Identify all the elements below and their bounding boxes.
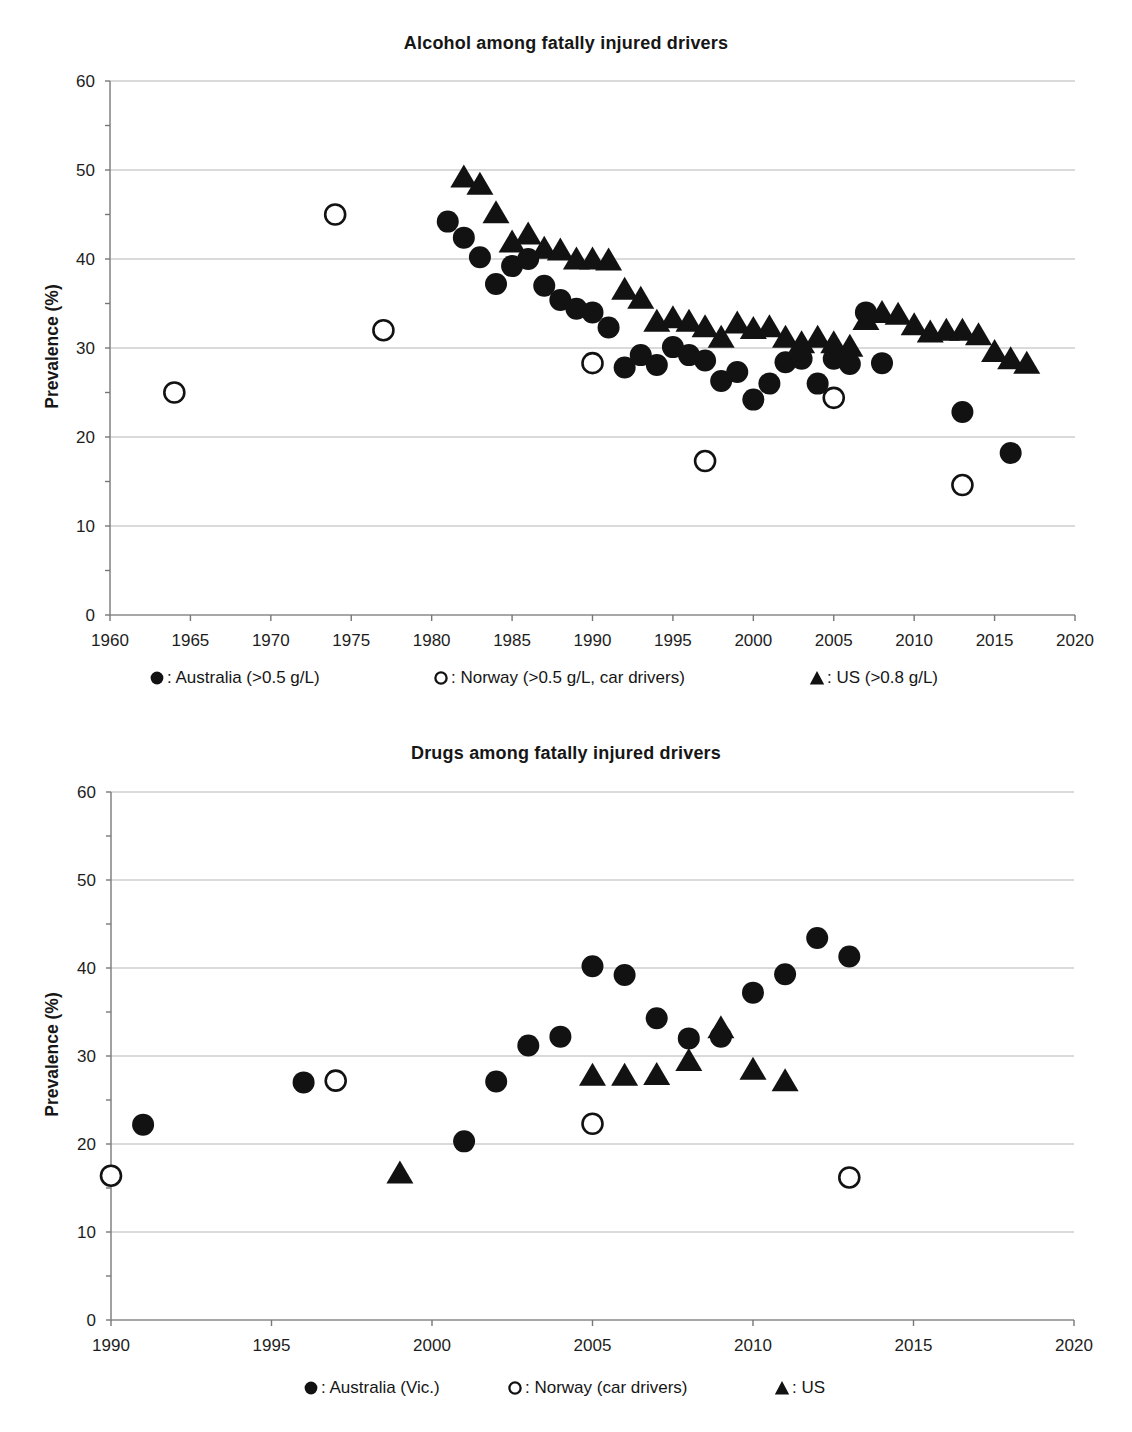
data-point-australia [517,248,539,270]
alcohol-chart-title: Alcohol among fatally injured drivers [0,33,1132,54]
data-point-us [466,172,493,195]
filled-triangle-icon [773,1378,791,1396]
y-tick-label: 40 [76,250,95,269]
data-point-australia [582,955,604,977]
data-point-us [708,325,735,348]
data-point-australia [710,370,732,392]
data-point-norway [583,1114,603,1134]
data-point-australia [678,344,700,366]
data-point-australia [1000,442,1022,464]
alcohol-plot-area: 0102030405060196019651970197519801985199… [76,72,1094,650]
legend-item-australia-drugs: : Australia (Vic.) [302,1378,440,1398]
x-tick-label: 1965 [172,631,210,650]
x-tick-label: 1990 [574,631,612,650]
data-point-us [949,318,976,341]
plots-canvas: 0102030405060196019651970197519801985199… [0,0,1132,1432]
x-tick-label: 2005 [815,631,853,650]
data-point-australia [710,1026,732,1048]
data-point-us [643,1062,670,1085]
filled-circle-icon [302,1378,320,1396]
x-tick-label: 1995 [253,1336,291,1355]
x-tick-label: 1980 [413,631,451,650]
legend-label: : US (>0.8 g/L) [827,668,938,687]
data-point-australia [582,301,604,323]
data-point-australia [807,373,829,395]
data-point-us [933,318,960,341]
data-point-australia [630,344,652,366]
data-point-australia [437,211,459,233]
y-tick-label: 0 [87,1311,96,1330]
data-point-australia [646,354,668,376]
data-point-australia [453,227,475,249]
data-point-australia [758,373,780,395]
x-tick-label: 2005 [574,1336,612,1355]
legend-item-australia-alcohol: : Australia (>0.5 g/L) [148,668,320,688]
data-point-australia [742,982,764,1004]
data-point-us [692,314,719,337]
legend-item-us-drugs: : US [773,1378,825,1398]
x-tick-label: 1970 [252,631,290,650]
data-point-us [643,309,670,332]
alcohol-y-axis-label: Prevalence (%) [42,237,63,457]
data-point-us [386,1161,413,1184]
data-point-australia [485,1071,507,1093]
data-point-norway [952,475,972,495]
y-tick-label: 50 [77,871,96,890]
x-tick-label: 1975 [332,631,370,650]
drugs-chart-title: Drugs among fatally injured drivers [0,743,1132,764]
data-point-norway [695,451,715,471]
x-tick-label: 2020 [1056,631,1094,650]
data-point-australia [517,1034,539,1056]
data-point-us [659,305,686,328]
data-point-norway [101,1166,121,1186]
data-point-australia [694,349,716,371]
y-tick-label: 60 [76,72,95,91]
data-point-us [852,307,879,330]
data-point-us [676,309,703,332]
data-point-australia [549,289,571,311]
data-point-us [724,311,751,334]
open-circle-icon [506,1378,524,1396]
data-point-us [981,339,1008,362]
data-point-us [547,238,574,261]
legend-item-norway-drugs: : Norway (car drivers) [506,1378,687,1398]
x-tick-label: 2015 [976,631,1014,650]
x-tick-label: 1995 [654,631,692,650]
y-tick-label: 10 [77,1223,96,1242]
data-point-us [869,300,896,323]
data-point-australia [662,336,684,358]
data-point-us [740,1057,767,1080]
legend-item-us-alcohol: : US (>0.8 g/L) [808,668,938,688]
data-point-australia [806,927,828,949]
data-point-australia [533,275,555,297]
data-point-australia [775,351,797,373]
x-tick-label: 2020 [1055,1336,1093,1355]
data-point-norway [325,205,345,225]
data-point-us [1013,351,1040,374]
data-point-us [836,334,863,357]
filled-triangle-icon [808,668,826,686]
legend-label: : Norway (>0.5 g/L, car drivers) [451,668,685,687]
data-point-us [515,222,542,245]
data-point-us [627,286,654,309]
x-tick-label: 2000 [734,631,772,650]
data-point-us [611,277,638,300]
data-point-norway [839,1167,859,1187]
data-point-australia [646,1007,668,1029]
data-point-australia [614,964,636,986]
data-point-us [965,322,992,345]
y-tick-label: 0 [86,606,95,625]
data-point-us [917,319,944,342]
data-point-australia [839,353,861,375]
y-tick-label: 60 [77,783,96,802]
data-point-australia [742,389,764,411]
data-point-us [707,1015,734,1038]
scanned-figure-page: 0102030405060196019651970197519801985199… [0,0,1132,1432]
data-point-norway [164,383,184,403]
alcohol-legend: : Australia (>0.5 g/L) : Norway (>0.5 g/… [0,668,1132,694]
legend-label: : Australia (>0.5 g/L) [167,668,320,687]
y-tick-label: 40 [77,959,96,978]
data-point-norway [824,388,844,408]
y-tick-label: 20 [77,1135,96,1154]
data-point-us [531,236,558,259]
